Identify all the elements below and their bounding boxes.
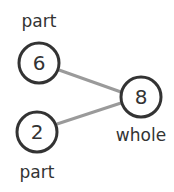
connector-bottom-to-whole [57, 103, 121, 124]
part-label-top: part [22, 11, 57, 31]
part-node-top: part 6 [19, 11, 59, 83]
connector-top-to-whole [59, 70, 121, 92]
part-value-bottom: 2 [31, 120, 44, 144]
part-value-top: 6 [33, 51, 46, 75]
whole-value: 8 [135, 85, 148, 109]
whole-label: whole [116, 125, 166, 145]
part-label-bottom: part [20, 162, 55, 182]
number-bond-diagram: part 6 2 part 8 whole [0, 0, 174, 192]
whole-node: 8 whole [116, 77, 166, 145]
part-node-bottom: 2 part [17, 112, 57, 182]
